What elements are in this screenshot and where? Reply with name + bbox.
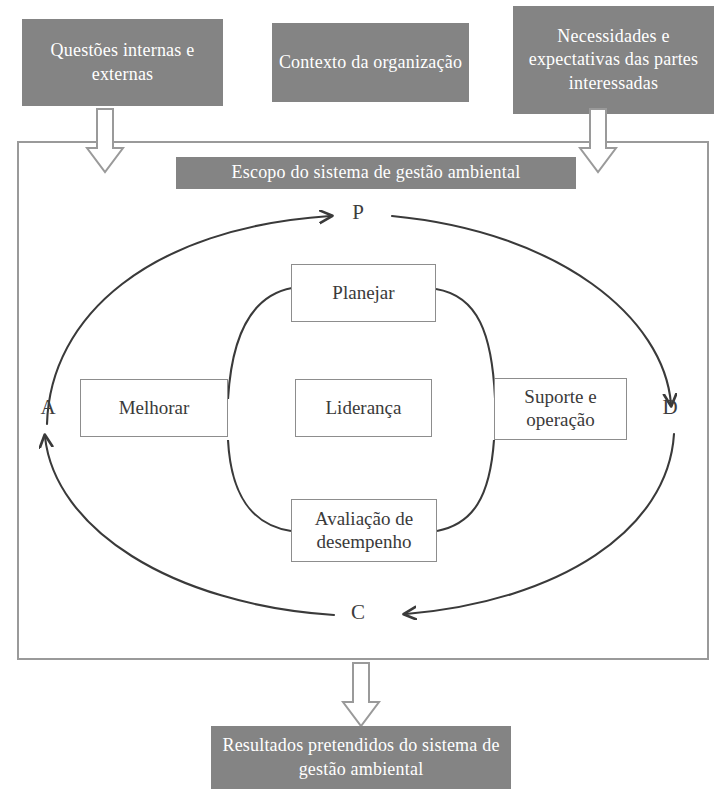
- down-block-arrow-left-input: [85, 108, 125, 174]
- diagram-canvas: Questões internas e externas Contexto da…: [0, 0, 727, 796]
- down-block-arrow-output: [341, 662, 381, 728]
- input-box-stakeholder-needs: Necessidades e expectativas das partes i…: [513, 6, 714, 114]
- process-box-plan: Planejar: [291, 264, 436, 322]
- process-box-improve: Melhorar: [80, 379, 228, 437]
- pdca-letter-plan: P: [343, 200, 373, 225]
- process-box-performance-evaluation: Avaliação de desempenho: [291, 499, 437, 562]
- input-box-internal-external-issues: Questões internas e externas: [22, 19, 223, 106]
- input-box-organization-context: Contexto da organização: [272, 23, 469, 102]
- pdca-letter-check: C: [343, 600, 373, 625]
- output-box-intended-outcomes: Resultados pretendidos do sistema de ges…: [211, 726, 511, 789]
- scope-banner: Escopo do sistema de gestão ambiental: [176, 157, 576, 189]
- pdca-letter-act: A: [33, 395, 63, 420]
- process-box-support-operation: Suporte e operação: [494, 378, 627, 440]
- down-block-arrow-right-input: [578, 108, 618, 174]
- process-box-leadership: Liderança: [295, 379, 432, 437]
- pdca-letter-do: D: [655, 395, 685, 420]
